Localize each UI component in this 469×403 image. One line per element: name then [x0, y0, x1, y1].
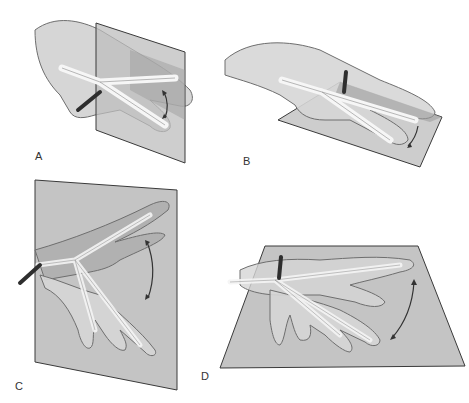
panel-label-d: D: [201, 370, 209, 382]
panel-d-illustration: [200, 240, 469, 403]
panel-label-b: B: [243, 155, 250, 167]
panel-a: A: [0, 0, 230, 180]
panel-label-c: C: [15, 380, 23, 392]
panel-c-illustration: [0, 180, 200, 403]
axis-rod: [279, 257, 281, 278]
panel-label-a: A: [35, 150, 42, 162]
axis-rod: [344, 72, 346, 92]
panel-c: C: [0, 180, 200, 403]
panel-b: B: [230, 0, 469, 180]
panel-d: D: [200, 240, 469, 403]
panel-b-illustration: [230, 0, 469, 180]
